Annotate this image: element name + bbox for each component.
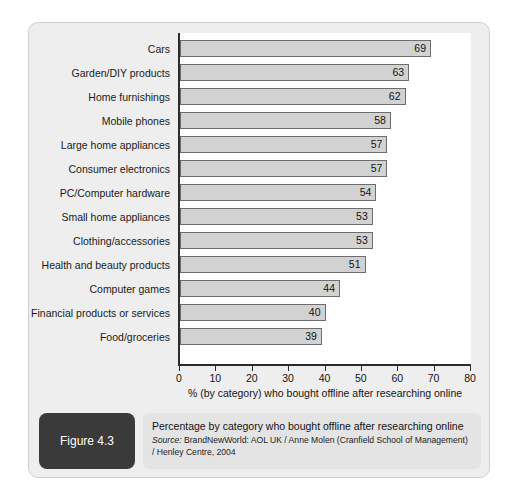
bar-row: 53: [180, 229, 471, 253]
category-label: Small home appliances: [29, 205, 175, 229]
x-axis-tick: [325, 366, 326, 371]
caption-title: Percentage by category who bought offlin…: [152, 420, 472, 433]
x-axis-tick: [397, 366, 398, 371]
category-label: Garden/DIY products: [29, 61, 175, 85]
caption-source-text: BrandNewWorld: AOL UK / Anne Molen (Cran…: [152, 435, 468, 457]
x-axis-tick: [252, 366, 253, 371]
category-label: Home furnishings: [29, 85, 175, 109]
bar-row: 69: [180, 37, 471, 61]
x-axis-tick: [288, 366, 289, 371]
bar-row: 58: [180, 109, 471, 133]
category-label: Clothing/accessories: [29, 229, 175, 253]
x-axis-tick: [470, 366, 471, 371]
category-label: Computer games: [29, 277, 175, 301]
x-axis-tick-label: 30: [273, 372, 303, 384]
x-axis-tick-label: 20: [237, 372, 267, 384]
caption-panel: Percentage by category who bought offlin…: [143, 413, 481, 469]
caption-block: Figure 4.3 Percentage by category who bo…: [39, 413, 481, 469]
x-axis-tick-label: 60: [382, 372, 412, 384]
bar-row: 53: [180, 205, 471, 229]
x-axis-tick-label: 70: [419, 372, 449, 384]
bar-value-label: 53: [180, 232, 368, 249]
bar-row: 57: [180, 157, 471, 181]
category-axis: CarsGarden/DIY productsHome furnishingsM…: [29, 37, 175, 349]
category-label: Large home appliances: [29, 133, 175, 157]
y-axis-line: [178, 33, 180, 365]
x-axis-tick-label: 40: [310, 372, 340, 384]
bar-value-label: 58: [180, 112, 386, 129]
bar-value-label: 53: [180, 208, 368, 225]
bar-value-label: 39: [180, 328, 317, 345]
category-label: Consumer electronics: [29, 157, 175, 181]
caption-source-prefix: Source:: [152, 435, 182, 445]
x-axis-tick: [215, 366, 216, 371]
bar-value-label: 57: [180, 136, 382, 153]
bar-row: 39: [180, 325, 471, 349]
x-axis-title: % (by category) who bought offline after…: [179, 387, 471, 399]
x-axis-tick-label: 0: [164, 372, 194, 384]
x-axis-tick: [179, 366, 180, 371]
bar-row: 40: [180, 301, 471, 325]
bar-row: 62: [180, 85, 471, 109]
bar-value-label: 63: [180, 64, 404, 81]
category-label: Health and beauty products: [29, 253, 175, 277]
bar-value-label: 44: [180, 280, 335, 297]
bar-value-label: 54: [180, 184, 371, 201]
bar-row: 63: [180, 61, 471, 85]
category-label: Cars: [29, 37, 175, 61]
x-axis-tick-label: 50: [346, 372, 376, 384]
bar-row: 57: [180, 133, 471, 157]
bars-layer: 69636258575754535351444039: [180, 37, 471, 349]
figure-number-badge: Figure 4.3: [39, 413, 135, 469]
bar-chart: CarsGarden/DIY productsHome furnishingsM…: [29, 23, 491, 393]
bar-value-label: 57: [180, 160, 382, 177]
category-label: Financial products or services: [29, 301, 175, 325]
caption-source: Source: BrandNewWorld: AOL UK / Anne Mol…: [152, 435, 472, 458]
bar-value-label: 69: [180, 40, 426, 57]
bar-value-label: 62: [180, 88, 401, 105]
x-axis-tick: [361, 366, 362, 371]
bar-value-label: 51: [180, 256, 361, 273]
category-label: PC/Computer hardware: [29, 181, 175, 205]
x-axis-tick: [434, 366, 435, 371]
x-axis-tick-label: 10: [200, 372, 230, 384]
category-label: Mobile phones: [29, 109, 175, 133]
bar-value-label: 40: [180, 304, 321, 321]
category-label: Food/groceries: [29, 325, 175, 349]
x-axis-tick-label: 80: [455, 372, 485, 384]
figure-card: CarsGarden/DIY productsHome furnishingsM…: [28, 22, 490, 478]
bar-row: 54: [180, 181, 471, 205]
bar-row: 51: [180, 253, 471, 277]
bar-row: 44: [180, 277, 471, 301]
